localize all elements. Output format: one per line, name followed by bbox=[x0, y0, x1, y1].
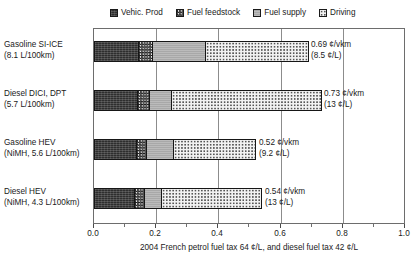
legend-swatch-fuel-feedstock-icon bbox=[176, 9, 184, 17]
legend-label-fuel-supply: Fuel supply bbox=[264, 8, 306, 17]
axis-tick-label-5: 1.0 bbox=[398, 229, 409, 238]
legend-swatch-vehic-prod-icon bbox=[110, 9, 118, 17]
category-label-0-line2: (8.1 L/100km) bbox=[4, 51, 90, 62]
bar-segment-vehic-prod bbox=[95, 42, 139, 61]
value-label-0-line1: 0.69 ¢/vkm bbox=[311, 40, 351, 49]
axis-tick-minor-0.1 bbox=[124, 224, 125, 227]
category-label-3-line1: Diesel HEV bbox=[4, 187, 46, 196]
legend-item-vehic-prod: Vehic. Prod bbox=[110, 8, 163, 17]
bar-segment-driving bbox=[174, 140, 255, 159]
legend-item-fuel-supply: Fuel supply bbox=[253, 8, 306, 17]
plot-area bbox=[93, 28, 405, 224]
legend-swatch-fuel-supply-icon bbox=[253, 9, 261, 17]
value-label-0: 0.69 ¢/vkm (8.5 ¢/L) bbox=[311, 40, 351, 61]
axis-tick-label-2: 0.4 bbox=[211, 229, 222, 238]
bar-segment-vehic-prod bbox=[95, 140, 137, 159]
stacked-bar-2[interactable] bbox=[94, 139, 256, 160]
bar-segment-driving bbox=[172, 91, 321, 110]
axis-tick-label-3: 0.6 bbox=[274, 229, 285, 238]
legend-label-vehic-prod: Vehic. Prod bbox=[121, 8, 163, 17]
category-label-1-line2: (5.7 L/100km) bbox=[4, 100, 90, 111]
axis-tick-0.0 bbox=[93, 224, 94, 228]
category-label-2-line2: (NiMH, 5.6 L/100km) bbox=[4, 149, 90, 160]
axis-tick-minor-0.7 bbox=[311, 224, 312, 227]
bar-segment-vehic-prod bbox=[95, 91, 138, 110]
stacked-bar-3[interactable] bbox=[94, 188, 262, 209]
value-label-1-line2: (13 ¢/L) bbox=[324, 100, 364, 111]
value-label-3: 0.54 ¢/vkm (13 ¢/L) bbox=[265, 187, 305, 208]
value-label-0-line2: (8.5 ¢/L) bbox=[311, 51, 351, 62]
legend-item-driving: Driving bbox=[319, 8, 355, 17]
bar-segment-fuel-supply bbox=[147, 140, 174, 159]
legend-item-fuel-feedstock: Fuel feedstock bbox=[176, 8, 240, 17]
bar-segment-fuel-feedstock bbox=[135, 189, 145, 208]
value-label-2-line2: (9.2 ¢/L) bbox=[259, 149, 299, 160]
axis-tick-0.4 bbox=[217, 224, 218, 228]
bar-segment-fuel-feedstock bbox=[139, 42, 153, 61]
category-label-1-line1: Diesel DICI, DPT bbox=[4, 89, 66, 98]
stacked-bar-1[interactable] bbox=[94, 90, 322, 111]
category-label-2-line1: Gasoline HEV bbox=[4, 138, 55, 147]
bar-segment-fuel-supply bbox=[150, 91, 172, 110]
bar-segment-fuel-feedstock bbox=[138, 91, 150, 110]
value-label-2-line1: 0.52 ¢/vkm bbox=[259, 138, 299, 147]
value-label-1: 0.73 ¢/vkm (13 ¢/L) bbox=[324, 89, 364, 110]
chart-container: Vehic. Prod Fuel feedstock Fuel supply D… bbox=[0, 0, 418, 266]
bar-segment-driving bbox=[162, 189, 261, 208]
stacked-bar-0[interactable] bbox=[94, 41, 309, 62]
legend-label-fuel-feedstock: Fuel feedstock bbox=[187, 8, 240, 17]
value-label-2: 0.52 ¢/vkm (9.2 ¢/L) bbox=[259, 138, 299, 159]
axis-tick-minor-0.9 bbox=[373, 224, 374, 227]
axis-tick-0.8 bbox=[342, 224, 343, 228]
axis-tick-0.2 bbox=[155, 224, 156, 228]
category-label-2: Gasoline HEV (NiMH, 5.6 L/100km) bbox=[4, 138, 90, 159]
chart-legend: Vehic. Prod Fuel feedstock Fuel supply D… bbox=[110, 6, 410, 19]
axis-tick-label-4: 0.8 bbox=[336, 229, 347, 238]
value-label-1-line1: 0.73 ¢/vkm bbox=[324, 89, 364, 98]
axis-tick-minor-0.5 bbox=[248, 224, 249, 227]
category-label-0: Gasoline SI-ICE (8.1 L/100km) bbox=[4, 40, 90, 61]
legend-swatch-driving-icon bbox=[319, 9, 327, 17]
category-label-1: Diesel DICI, DPT (5.7 L/100km) bbox=[4, 89, 90, 110]
x-axis-title: 2004 French petrol fuel tax 64 ¢/L, and … bbox=[93, 243, 405, 252]
bar-segment-fuel-supply bbox=[153, 42, 206, 61]
axis-tick-minor-0.3 bbox=[186, 224, 187, 227]
category-label-0-line1: Gasoline SI-ICE bbox=[4, 40, 63, 49]
value-label-3-line2: (13 ¢/L) bbox=[265, 198, 305, 209]
axis-tick-label-1: 0.2 bbox=[149, 229, 160, 238]
category-label-3: Diesel HEV (NiMH, 4.3 L/100km) bbox=[4, 187, 90, 208]
axis-tick-1.0 bbox=[404, 224, 405, 228]
value-label-3-line1: 0.54 ¢/vkm bbox=[265, 187, 305, 196]
category-label-3-line2: (NiMH, 4.3 L/100km) bbox=[4, 198, 90, 209]
legend-label-driving: Driving bbox=[330, 8, 355, 17]
bar-segment-driving bbox=[206, 42, 308, 61]
axis-tick-label-0: 0.0 bbox=[87, 229, 98, 238]
axis-tick-0.6 bbox=[280, 224, 281, 228]
bar-segment-fuel-feedstock bbox=[137, 140, 147, 159]
bar-segment-fuel-supply bbox=[145, 189, 162, 208]
bar-segment-vehic-prod bbox=[95, 189, 135, 208]
